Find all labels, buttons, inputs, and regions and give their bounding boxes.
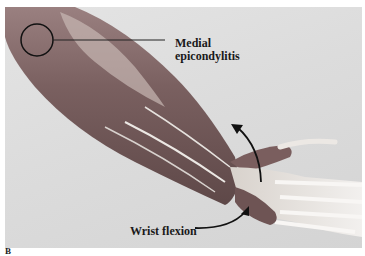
arrowhead-icon [231, 124, 243, 134]
wrist-flexion-label: Wrist flexion [130, 225, 197, 238]
anatomy-figure: Medial epicondylitis Wrist flexion [5, 7, 362, 248]
label-line-2: epicondylitis [175, 50, 240, 63]
wrist-flexion-arrow [195, 212, 245, 228]
medial-epicondylitis-label: Medial epicondylitis [175, 37, 240, 63]
panel-label: B [5, 247, 11, 256]
